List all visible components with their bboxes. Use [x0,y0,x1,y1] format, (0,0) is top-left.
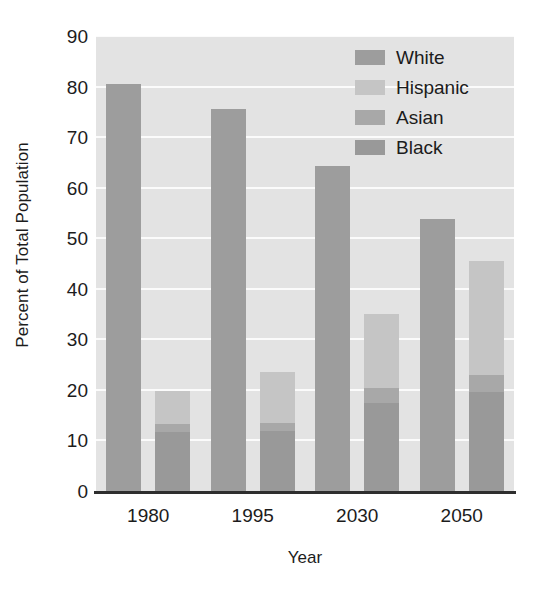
y-tick-label: 70 [67,128,88,147]
legend-item-hispanic: Hispanic [355,74,469,100]
legend-label: Black [396,138,442,157]
bar-segment-hispanic [155,391,190,423]
legend-swatch-white [355,50,385,65]
y-tick-label: 0 [77,482,88,501]
bar-segment-black [260,431,295,491]
y-tick-label: 50 [67,229,88,248]
y-axis-title: Percent of Total Population [0,0,46,490]
bar-white [106,84,141,491]
legend-item-black: Black [355,134,469,160]
bar-segment-black [469,392,504,491]
legend-swatch-black [355,140,385,155]
y-tick-label: 20 [67,380,88,399]
bar-white [420,219,455,491]
legend-swatch-asian [355,110,385,125]
bar-white [211,109,246,491]
x-tick-label: 2030 [336,506,378,525]
bar-minority-stack [469,261,504,491]
bar-segment-black [155,432,190,491]
bar-segment-asian [469,375,504,392]
gridline [96,187,514,189]
bar-segment-hispanic [364,314,399,389]
bar-minority-stack [364,314,399,491]
legend-item-white: White [355,44,469,70]
gridline [96,36,514,37]
y-tick-label: 90 [67,27,88,46]
chart-figure: Percent of Total Population 010203040506… [0,0,548,590]
x-axis-tick-labels: 1980199520302050 [96,498,514,532]
x-tick-label: 2050 [441,506,483,525]
bar-segment-asian [364,388,399,402]
bar-minority-stack [155,391,190,491]
y-axis-tick-labels: 0102030405060708090 [46,0,96,590]
bar-minority-stack [260,372,295,491]
bar-segment-asian [260,423,295,431]
x-tick-label: 1995 [232,506,274,525]
bar-segment-hispanic [260,372,295,424]
legend-label: Asian [396,108,444,127]
legend-label: Hispanic [396,78,469,97]
y-tick-label: 80 [67,77,88,96]
y-tick-label: 30 [67,330,88,349]
y-tick-label: 40 [67,279,88,298]
x-axis-title: Year [95,548,515,568]
legend-swatch-hispanic [355,80,385,95]
bar-segment-hispanic [469,261,504,375]
y-axis-title-text: Percent of Total Population [13,142,33,348]
x-tick-label: 1980 [127,506,169,525]
y-tick-label: 60 [67,178,88,197]
legend-label: White [396,48,445,67]
bar-white [315,166,350,491]
bar-segment-black [364,403,399,491]
chart-legend: WhiteHispanicAsianBlack [355,44,469,160]
x-axis-title-text: Year [288,548,322,567]
legend-item-asian: Asian [355,104,469,130]
bar-segment-asian [155,424,190,432]
y-tick-label: 10 [67,431,88,450]
x-axis-line [94,491,516,494]
